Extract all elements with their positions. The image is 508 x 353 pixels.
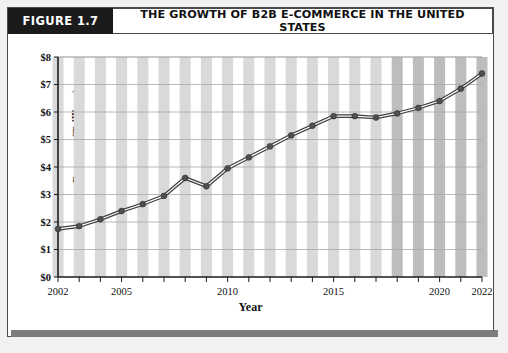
card-shadow <box>11 330 498 337</box>
x-tick-label: 2010 <box>217 286 238 297</box>
data-point-2006 <box>140 201 146 207</box>
data-point-2007 <box>161 193 167 199</box>
plot-area: Revenue (Trillions) Year $0$1$2$3$4$5$6$… <box>8 35 493 330</box>
data-point-2017 <box>373 115 379 121</box>
x-tick-label: 2005 <box>111 286 132 297</box>
data-point-2018 <box>394 110 400 116</box>
figure-container: FIGURE 1.7 THE GROWTH OF B2B E-COMMERCE … <box>0 0 508 353</box>
x-tick-label: 2022 <box>472 286 493 297</box>
y-tick-label: $7 <box>41 79 52 90</box>
data-point-2004 <box>98 216 104 222</box>
figure-header: FIGURE 1.7 THE GROWTH OF B2B E-COMMERCE … <box>8 8 493 34</box>
data-point-2010 <box>225 165 231 171</box>
data-point-2003 <box>76 223 82 229</box>
data-point-2022 <box>479 71 485 77</box>
data-point-2016 <box>352 113 358 119</box>
data-point-2019 <box>416 105 422 111</box>
data-point-2005 <box>119 208 125 214</box>
y-tick-label: $0 <box>41 272 52 283</box>
figure-number-tag: FIGURE 1.7 <box>8 8 113 34</box>
y-tick-label: $4 <box>41 162 52 173</box>
data-point-2021 <box>458 86 464 92</box>
data-point-2015 <box>331 113 337 119</box>
data-point-2008 <box>182 175 188 181</box>
x-tick-label: 2015 <box>323 286 344 297</box>
y-tick-label: $2 <box>41 217 52 228</box>
figure-title: THE GROWTH OF B2B E-COMMERCE IN THE UNIT… <box>113 8 493 34</box>
y-tick-label: $3 <box>41 189 52 200</box>
data-point-2011 <box>246 154 252 160</box>
y-tick-label: $1 <box>41 244 52 255</box>
data-point-2013 <box>288 132 294 138</box>
xtick-layer: 200220052010201520202022 <box>48 277 493 297</box>
data-point-2020 <box>437 98 443 104</box>
x-tick-label: 2002 <box>48 286 69 297</box>
y-tick-label: $5 <box>41 134 52 145</box>
chart-svg: $0$1$2$3$4$5$6$7$8 200220052010201520202… <box>8 35 493 330</box>
data-point-2014 <box>310 123 316 129</box>
data-point-2009 <box>204 183 210 189</box>
data-point-2002 <box>55 226 61 232</box>
data-point-2012 <box>267 143 273 149</box>
y-tick-label: $6 <box>41 107 52 118</box>
x-tick-label: 2020 <box>429 286 450 297</box>
y-tick-label: $8 <box>41 52 52 63</box>
